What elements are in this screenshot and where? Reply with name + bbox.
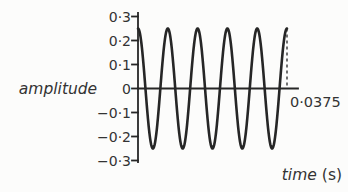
y-tick-label: 0: [122, 81, 131, 97]
y-axis-ticks: 0·30·20·10−0·1−0·2−0·3: [97, 9, 138, 169]
y-tick-label: 0·2: [109, 33, 131, 49]
y-tick-label: −0·3: [97, 153, 131, 169]
x-end-value-label: 0·0375: [290, 94, 341, 110]
amplitude-time-chart: 0·30·20·10−0·1−0·2−0·3 amplitude 0·0375 …: [0, 0, 348, 192]
y-tick-label: 0·3: [109, 9, 131, 25]
y-tick-label: 0·1: [109, 57, 131, 73]
y-tick-label: −0·2: [97, 129, 131, 145]
waveform-figure: 0·30·20·10−0·1−0·2−0·3 amplitude 0·0375 …: [0, 0, 348, 192]
y-axis-title: amplitude: [19, 80, 97, 98]
x-axis-title: time(s): [282, 166, 342, 184]
x-axis-title-unit: (s): [322, 166, 342, 184]
y-tick-label: −0·1: [97, 105, 131, 121]
x-axis-title-word: time: [282, 166, 317, 184]
